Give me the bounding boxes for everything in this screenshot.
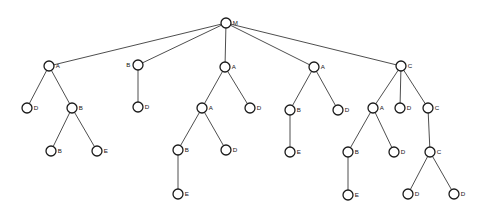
node-circle[interactable]: [67, 103, 77, 113]
tree-node[interactable]: C: [396, 61, 413, 71]
tree-edge: [54, 24, 221, 65]
node-label: E: [355, 191, 359, 198]
tree-node[interactable]: D: [221, 145, 238, 155]
tree-edge: [204, 112, 223, 145]
node-label: B: [79, 104, 83, 111]
node-label: C: [435, 104, 440, 111]
node-label: B: [126, 61, 130, 68]
tree-node[interactable]: E: [285, 147, 301, 157]
node-label: C: [437, 148, 442, 155]
tree-edge: [51, 70, 69, 103]
node-circle[interactable]: [285, 105, 295, 115]
tree-edge: [428, 113, 430, 147]
node-circle[interactable]: [44, 61, 54, 71]
node-circle[interactable]: [221, 145, 231, 155]
node-label: E: [185, 190, 189, 197]
node-circle[interactable]: [395, 103, 405, 113]
node-label: D: [415, 190, 420, 197]
node-circle[interactable]: [403, 189, 413, 199]
tree-diagram: MADBBEBDAADBDEABDECADCBDECDD: [0, 0, 484, 211]
tree-edge: [225, 28, 226, 62]
node-circle[interactable]: [173, 145, 183, 155]
tree-node[interactable]: E: [343, 190, 359, 200]
tree-edge: [350, 112, 370, 147]
node-label: E: [104, 147, 108, 154]
tree-edge: [400, 71, 401, 103]
tree-edge: [75, 112, 95, 146]
tree-node[interactable]: A: [44, 61, 61, 71]
node-label: D: [257, 104, 262, 111]
node-circle[interactable]: [396, 61, 406, 71]
tree-node[interactable]: D: [403, 189, 420, 199]
node-circle[interactable]: [245, 103, 255, 113]
tree-edge: [29, 70, 46, 103]
node-circle[interactable]: [197, 103, 207, 113]
tree-node[interactable]: A: [309, 62, 326, 72]
node-label: B: [297, 106, 301, 113]
node-circle[interactable]: [173, 189, 183, 199]
tree-node[interactable]: A: [197, 103, 214, 113]
node-label: A: [321, 63, 326, 70]
nodes-group: MADBBEBDAADBDEABDECADCBDECDD: [22, 18, 466, 200]
tree-node[interactable]: D: [333, 105, 350, 115]
tree-node[interactable]: D: [449, 189, 466, 199]
node-circle[interactable]: [368, 103, 378, 113]
tree-edge: [228, 71, 248, 103]
edges-group: [29, 24, 451, 190]
tree-node[interactable]: M: [221, 18, 238, 28]
tree-node[interactable]: C: [425, 147, 442, 157]
node-label: D: [145, 103, 150, 110]
tree-node[interactable]: D: [395, 103, 412, 113]
tree-edge: [316, 71, 335, 105]
tree-node[interactable]: D: [389, 147, 406, 157]
node-label: C: [408, 62, 413, 69]
node-circle[interactable]: [46, 146, 56, 156]
node-circle[interactable]: [133, 60, 143, 70]
node-circle[interactable]: [221, 18, 231, 28]
tree-node[interactable]: B: [67, 103, 83, 113]
tree-edge: [375, 113, 392, 148]
node-label: D: [407, 104, 412, 111]
node-circle[interactable]: [343, 190, 353, 200]
node-label: A: [209, 104, 214, 111]
tree-edge: [404, 70, 426, 104]
node-label: D: [233, 146, 238, 153]
node-label: D: [401, 148, 406, 155]
tree-edge: [204, 71, 222, 103]
node-label: B: [185, 146, 189, 153]
node-circle[interactable]: [220, 62, 230, 72]
node-circle[interactable]: [449, 189, 459, 199]
node-circle[interactable]: [333, 105, 343, 115]
node-label: E: [297, 148, 301, 155]
node-label: A: [232, 63, 237, 70]
tree-edge: [180, 112, 199, 145]
tree-node[interactable]: A: [368, 103, 385, 113]
node-circle[interactable]: [423, 103, 433, 113]
tree-node[interactable]: B: [126, 60, 143, 70]
tree-edge: [231, 24, 396, 65]
node-label: B: [355, 148, 359, 155]
tree-edge: [376, 70, 398, 104]
tree-node[interactable]: C: [423, 103, 440, 113]
tree-node[interactable]: E: [173, 189, 189, 199]
node-circle[interactable]: [309, 62, 319, 72]
node-circle[interactable]: [343, 147, 353, 157]
tree-edge: [292, 71, 311, 105]
tree-node[interactable]: D: [245, 103, 262, 113]
node-circle[interactable]: [425, 147, 435, 157]
tree-node[interactable]: D: [22, 103, 39, 113]
tree-node[interactable]: B: [173, 145, 189, 155]
node-circle[interactable]: [133, 102, 143, 112]
node-circle[interactable]: [285, 147, 295, 157]
tree-node[interactable]: A: [220, 62, 237, 72]
tree-node[interactable]: B: [343, 147, 359, 157]
tree-node[interactable]: D: [133, 102, 150, 112]
node-label: B: [58, 147, 62, 154]
node-circle[interactable]: [22, 103, 32, 113]
tree-node[interactable]: B: [46, 146, 62, 156]
node-circle[interactable]: [92, 146, 102, 156]
node-label: A: [380, 104, 385, 111]
node-circle[interactable]: [389, 147, 399, 157]
tree-node[interactable]: E: [92, 146, 108, 156]
tree-node[interactable]: B: [285, 105, 301, 115]
